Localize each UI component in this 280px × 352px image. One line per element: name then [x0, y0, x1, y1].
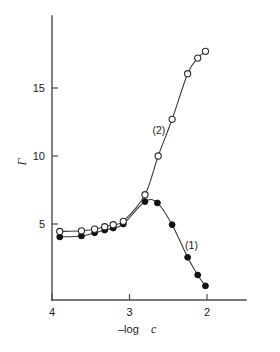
data-point-open-circle: [169, 116, 175, 122]
y-tick-label: 5: [39, 218, 45, 230]
data-point-filled-circle: [195, 272, 201, 278]
data-point-open-circle: [110, 222, 116, 228]
x-tick-label: 3: [126, 306, 132, 318]
data-point-open-circle: [142, 192, 148, 198]
data-point-open-circle: [195, 55, 201, 61]
data-point-filled-circle: [169, 222, 175, 228]
data-point-open-circle: [155, 153, 161, 159]
data-point-open-circle: [57, 228, 63, 234]
data-point-open-circle: [92, 226, 98, 232]
data-point-open-circle: [120, 218, 126, 224]
data-point-filled-circle: [185, 254, 191, 260]
y-tick-label: 10: [33, 150, 45, 162]
data-point-filled-circle: [142, 199, 148, 205]
data-point-open-circle: [102, 224, 108, 230]
data-point-open-circle: [185, 71, 191, 77]
series-curve-2: [60, 51, 206, 231]
y-axis-ticks: 51015: [33, 82, 58, 230]
y-axis-label: Γ: [15, 157, 29, 166]
curve-label-1: (1): [185, 239, 198, 251]
plot-canvas: 51015 432 (1)(2) Γ –log c: [0, 0, 280, 352]
data-point-filled-circle: [203, 283, 209, 289]
x-axis-label: –log c: [118, 322, 157, 336]
chart-figure: 51015 432 (1)(2) Γ –log c: [0, 0, 280, 352]
data-point-filled-circle: [155, 200, 161, 206]
data-point-open-circle: [78, 228, 84, 234]
data-point-open-circle: [202, 48, 208, 54]
axes-group: [52, 16, 246, 300]
x-axis-ticks: 432: [49, 294, 210, 318]
data-curves: [60, 51, 206, 286]
y-tick-label: 15: [33, 82, 45, 94]
x-axis-label-variable: c: [151, 322, 157, 336]
x-tick-label: 4: [49, 306, 55, 318]
x-tick-label: 2: [204, 306, 210, 318]
curve-label-2: (2): [152, 124, 165, 136]
x-axis-label-prefix: –log: [118, 323, 139, 335]
